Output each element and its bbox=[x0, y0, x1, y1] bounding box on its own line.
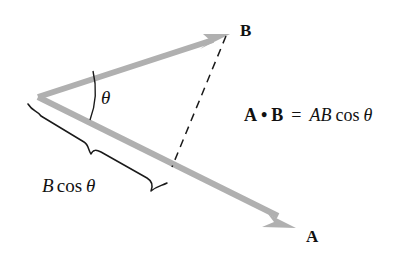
vector-a-shaft bbox=[38, 97, 278, 216]
dot-product-figure: B A θ B cos θ A•B=ABcosθ bbox=[0, 0, 418, 258]
equation-cos: cos bbox=[335, 106, 359, 124]
projection-magnitude: B bbox=[42, 175, 54, 196]
equals-sign: = bbox=[291, 106, 301, 124]
vector-diagram-canvas bbox=[0, 0, 418, 258]
dot-operator-icon: • bbox=[261, 106, 267, 124]
dot-product-equation: A•B=ABcosθ bbox=[244, 106, 372, 124]
projection-dashed-line bbox=[172, 36, 226, 167]
projection-length-label: B cos θ bbox=[42, 176, 95, 195]
equation-magnitudes: AB bbox=[309, 106, 331, 124]
equation-theta: θ bbox=[363, 106, 372, 124]
vector-b-label: B bbox=[240, 22, 252, 39]
equation-vector-a: A bbox=[244, 106, 257, 124]
projection-cos: cos bbox=[57, 175, 82, 196]
projection-theta: θ bbox=[86, 175, 95, 196]
equation-vector-b: B bbox=[271, 106, 283, 124]
vector-b-arrow bbox=[38, 34, 230, 97]
angle-theta-label: θ bbox=[101, 88, 110, 107]
vector-a-label: A bbox=[306, 228, 318, 245]
vector-b-shaft bbox=[38, 40, 213, 97]
vector-a-arrowhead bbox=[262, 214, 296, 228]
